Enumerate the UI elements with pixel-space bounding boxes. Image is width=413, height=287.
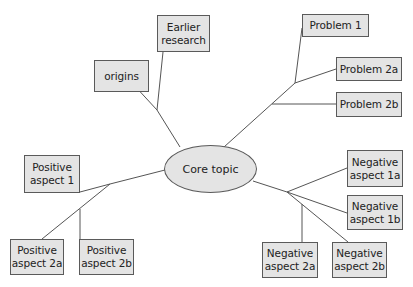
node-positive-aspect-1[interactable]: Positive aspect 1 [24, 155, 80, 193]
node-label: Positive aspect 1 [30, 161, 74, 187]
link-history-earlier [157, 52, 163, 110]
link-core-history [157, 110, 180, 147]
node-label: Earlier research [161, 21, 206, 47]
link-core-problems [224, 83, 295, 147]
mind-map-canvas: Core topic origins Earlier research Prob… [0, 0, 413, 287]
node-label: Negative aspect 1a [350, 156, 400, 182]
node-problem-2a[interactable]: Problem 2a [336, 57, 402, 81]
link-core-negatives [253, 181, 287, 192]
link-negatives-1b [287, 192, 347, 213]
node-label: Positive aspect 2b [81, 244, 132, 270]
node-label: Positive aspect 2a [12, 244, 62, 270]
link-negatives-1a [287, 168, 347, 192]
node-negative-aspect-1b[interactable]: Negative aspect 1b [347, 195, 403, 230]
node-problem-2b[interactable]: Problem 2b [336, 92, 402, 117]
node-label: Problem 1 [309, 19, 361, 32]
node-positive-aspect-2a[interactable]: Positive aspect 2a [10, 239, 64, 275]
link-core-positives [110, 170, 165, 184]
node-label: Negative aspect 1b [350, 200, 401, 226]
node-origins[interactable]: origins [94, 60, 149, 92]
node-negative-aspect-2a[interactable]: Negative aspect 2a [262, 242, 318, 278]
core-topic-label: Core topic [182, 163, 238, 176]
node-label: Problem 2a [340, 63, 398, 76]
node-earlier-research[interactable]: Earlier research [157, 15, 210, 52]
node-negative-aspect-1a[interactable]: Negative aspect 1a [347, 150, 403, 187]
core-topic-node[interactable]: Core topic [164, 145, 257, 193]
node-label: Negative aspect 2a [265, 247, 315, 273]
node-positive-aspect-2b[interactable]: Positive aspect 2b [79, 239, 134, 275]
link-problems-1 [295, 28, 302, 83]
node-label: Problem 2b [340, 98, 399, 111]
node-negative-aspect-2b[interactable]: Negative aspect 2b [332, 242, 387, 278]
link-negatives-2b [287, 192, 348, 242]
link-problems-2a [295, 69, 336, 83]
node-label: Negative aspect 2b [334, 247, 385, 273]
node-problem-1[interactable]: Problem 1 [302, 14, 369, 37]
node-label: origins [104, 70, 139, 83]
